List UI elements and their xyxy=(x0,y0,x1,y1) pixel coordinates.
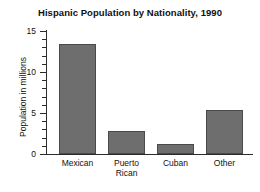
y-tick-label-15: 15 xyxy=(14,26,36,36)
y-tick-major-0 xyxy=(40,154,47,155)
y-tick-minor-3 xyxy=(42,129,47,130)
y-tick-major-5 xyxy=(40,113,47,114)
y-tick-minor-6 xyxy=(42,105,47,106)
x-tick-label-puerto-rican: Puerto Rican xyxy=(101,158,152,178)
chart-title: Hispanic Population by Nationality, 1990 xyxy=(0,7,260,18)
bar-mexican xyxy=(59,44,96,154)
y-tick-minor-13 xyxy=(42,47,47,48)
bar-other xyxy=(206,110,243,154)
y-tick-minor-11 xyxy=(42,64,47,65)
y-tick-minor-8 xyxy=(42,88,47,89)
y-tick-minor-12 xyxy=(42,56,47,57)
y-tick-major-10 xyxy=(40,72,47,73)
y-tick-minor-1 xyxy=(42,146,47,147)
x-tick-label-cuban: Cuban xyxy=(150,158,201,168)
bar-puerto-rican xyxy=(108,131,145,154)
x-tick-label-other: Other xyxy=(199,158,250,168)
y-tick-minor-7 xyxy=(42,97,47,98)
x-tick-label-mexican: Mexican xyxy=(52,158,103,168)
y-tick-label-10: 10 xyxy=(14,67,36,77)
y-axis-line xyxy=(46,30,47,155)
x-axis-line xyxy=(46,154,253,155)
bar-cuban xyxy=(157,144,194,154)
y-tick-minor-9 xyxy=(42,80,47,81)
bar-chart: Hispanic Population by Nationality, 1990… xyxy=(0,0,260,192)
x-tick-label-puerto-rican-line2: Rican xyxy=(101,168,152,178)
y-axis-title: Population in millions xyxy=(18,43,28,151)
y-tick-minor-14 xyxy=(42,39,47,40)
y-tick-minor-4 xyxy=(42,121,47,122)
y-tick-major-15 xyxy=(40,31,47,32)
x-tick-label-puerto-rican-line1: Puerto xyxy=(101,158,152,168)
y-tick-minor-2 xyxy=(42,138,47,139)
y-tick-label-0: 0 xyxy=(14,149,36,159)
y-tick-label-5: 5 xyxy=(14,108,36,118)
